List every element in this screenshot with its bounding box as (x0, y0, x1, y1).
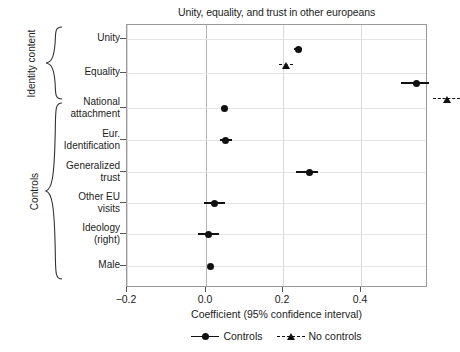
legend-label-controls: Controls (223, 330, 262, 342)
gridline-x-minus02 (127, 25, 128, 286)
legend-marker-triangle-icon (277, 332, 305, 341)
gridline-row-eur-identification (127, 140, 426, 141)
ytick-eur-identification (120, 139, 126, 140)
gridline-row-unity (127, 39, 426, 40)
ytick-generalized-trust (120, 171, 126, 172)
x-axis-title: Coefficient (95% confidence interval) (126, 308, 427, 320)
xtick-label-minus02: −0.2 (106, 293, 146, 305)
gridline-row-equality (127, 73, 426, 74)
ytick-equality (120, 72, 126, 73)
chart-title: Unity, equality, and trust in other euro… (126, 6, 427, 18)
xtick-label-00: 0.0 (185, 293, 225, 305)
gridline-row-male (127, 266, 426, 267)
point-marker-triangle (443, 96, 451, 103)
brace-identity-content (44, 26, 66, 100)
point-marker-circle (413, 80, 420, 87)
point-marker-circle (306, 169, 313, 176)
xtick-04 (360, 287, 361, 292)
point-marker-circle (211, 200, 218, 207)
point-marker-circle (207, 263, 214, 270)
ytick-unity (120, 38, 126, 39)
legend-marker-circle-icon (191, 332, 219, 341)
ytick-male (120, 265, 126, 266)
xtick-label-02: 0.2 (262, 293, 302, 305)
zero-reference-line (206, 25, 207, 286)
ytick-national-attachment (120, 107, 126, 108)
point-marker-circle (222, 137, 229, 144)
gridline-row-generalized-trust (127, 172, 426, 173)
group-label-controls: Controls (29, 152, 40, 232)
brace-controls (44, 102, 66, 280)
legend-label-no-controls: No controls (309, 330, 362, 342)
xtick-02 (282, 287, 283, 292)
group-label-identity-content: Identity content (26, 19, 37, 109)
plot-area (126, 24, 427, 287)
xtick-label-04: 0.4 (340, 293, 380, 305)
point-marker-circle (205, 231, 212, 238)
point-marker-circle (221, 105, 228, 112)
legend-entry-no-controls[interactable]: No controls (277, 330, 362, 342)
gridline-row-ideology (127, 234, 426, 235)
gridline-row-other-eu-visits (127, 203, 426, 204)
xtick-00 (205, 287, 206, 292)
xtick-minus02 (126, 287, 127, 292)
point-marker-triangle (282, 62, 290, 69)
ytick-other-eu-visits (120, 202, 126, 203)
chart-legend: Controls No controls (126, 330, 427, 342)
gridline-x-04 (361, 25, 362, 286)
ytick-ideology (120, 233, 126, 234)
gridline-row-national-attachment (127, 108, 426, 109)
point-marker-circle (295, 46, 302, 53)
legend-entry-controls[interactable]: Controls (191, 330, 262, 342)
